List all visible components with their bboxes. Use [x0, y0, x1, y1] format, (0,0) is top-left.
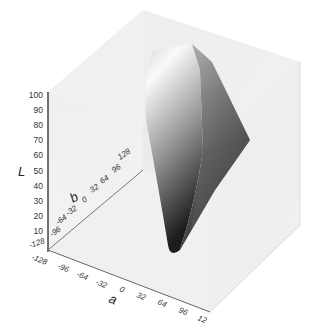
lab-3d-plot: 100 90 80 70 60 50 40 30 20 10 L -128 -9… — [0, 0, 317, 333]
l-tick: 50 — [34, 166, 44, 176]
l-tick: 10 — [34, 226, 44, 236]
a-tick: -64 — [75, 270, 90, 283]
a-tick: 32 — [135, 291, 147, 303]
a-tick: -128 — [30, 253, 49, 268]
l-tick: 90 — [34, 105, 44, 115]
a-tick: -32 — [94, 278, 109, 291]
l-axis-ticks: 100 90 80 70 60 50 40 30 20 10 L — [18, 90, 43, 236]
a-axis-label: a — [107, 291, 119, 308]
l-tick: 100 — [29, 90, 43, 100]
l-tick: 30 — [34, 196, 44, 206]
l-tick: 20 — [34, 211, 44, 221]
a-tick: -96 — [56, 262, 71, 275]
l-tick: 60 — [34, 150, 44, 160]
a-tick: 0 — [118, 285, 126, 295]
l-tick: 70 — [34, 135, 44, 145]
l-axis-label: L — [18, 164, 25, 179]
a-tick: 12 — [196, 314, 208, 326]
a-tick: 64 — [156, 298, 168, 310]
a-tick: 96 — [177, 306, 189, 318]
l-tick: 80 — [34, 120, 44, 130]
l-tick: 40 — [34, 181, 44, 191]
b-tick: -128 — [28, 236, 47, 250]
